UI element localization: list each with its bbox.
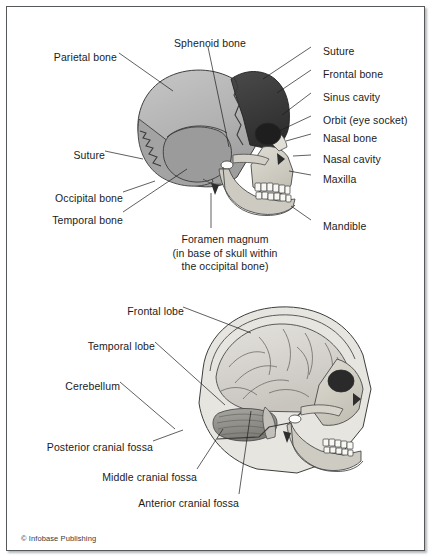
label-suture-top: Suture <box>323 45 355 59</box>
label-orbit: Orbit (eye socket) <box>323 114 408 128</box>
label-sinus-cavity: Sinus cavity <box>323 91 380 105</box>
label-cerebellum: Cerebellum <box>65 380 120 394</box>
label-frontal-bone: Frontal bone <box>323 68 383 82</box>
label-mandible: Mandible <box>323 220 366 234</box>
panel-skull-lateral <box>7 7 424 550</box>
label-maxilla: Maxilla <box>323 173 356 187</box>
skull-illustration <box>138 70 295 215</box>
label-suture-left: Suture <box>73 149 105 163</box>
label-frontal-lobe: Frontal lobe <box>127 305 184 319</box>
figure-frame: Parietal bone Sphenoid bone Suture Front… <box>6 6 425 551</box>
label-occipital-bone: Occipital bone <box>55 192 123 206</box>
anatomy-figure: Parietal bone Sphenoid bone Suture Front… <box>0 0 433 559</box>
caption-line-2: (in base of skull within <box>130 247 320 261</box>
copyright-notice: © Infobase Publishing <box>21 534 96 543</box>
caption-line-3: the occipital bone) <box>130 260 320 274</box>
caption-foramen-magnum: Foramen magnum (in base of skull within … <box>130 233 320 274</box>
label-temporal-bone: Temporal bone <box>52 214 123 228</box>
label-anterior-cranial-fossa: Anterior cranial fossa <box>138 497 239 511</box>
cranial-fossae-illustration <box>199 307 371 473</box>
label-sphenoid-bone: Sphenoid bone <box>130 37 290 51</box>
label-middle-cranial-fossa: Middle cranial fossa <box>102 471 197 485</box>
label-temporal-lobe: Temporal lobe <box>88 340 155 354</box>
label-parietal-bone: Parietal bone <box>54 51 117 65</box>
label-nasal-cavity: Nasal cavity <box>323 153 381 167</box>
caption-line-1: Foramen magnum <box>130 233 320 247</box>
label-posterior-cranial-fossa: Posterior cranial fossa <box>47 441 153 455</box>
label-nasal-bone: Nasal bone <box>323 132 377 146</box>
